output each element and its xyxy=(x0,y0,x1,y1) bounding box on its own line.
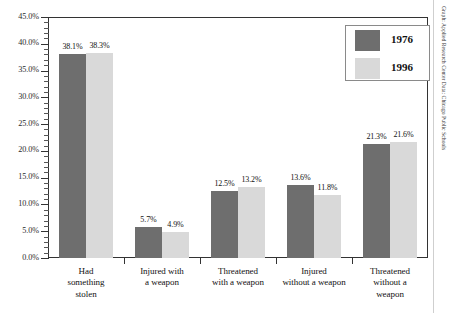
category-label-line: Injured xyxy=(270,266,358,277)
y-tick-minor xyxy=(44,221,49,222)
category-label-0: Hadsomethingstolen xyxy=(42,266,130,300)
y-tick-minor xyxy=(44,38,49,39)
y-tick-major xyxy=(41,151,49,152)
bar-value-label: 4.9% xyxy=(157,221,194,229)
category-label-line: weapon xyxy=(346,289,434,300)
credit-text: Graph: Applied Research Center Data: Chi… xyxy=(441,6,447,150)
category-label-line: without a xyxy=(346,277,434,288)
y-axis-label: 40.0% xyxy=(1,39,39,47)
y-tick-minor xyxy=(44,54,49,55)
y-axis-label: 35.0% xyxy=(1,66,39,74)
category-label-line: a weapon xyxy=(118,277,206,288)
bar-1976-1 xyxy=(135,227,162,258)
x-tick xyxy=(352,258,353,264)
y-tick-major xyxy=(41,231,49,232)
y-tick-major xyxy=(41,71,49,72)
y-axis-label-wrap: 5.0% xyxy=(0,227,39,236)
y-tick-minor xyxy=(44,156,49,157)
bar-1996-2 xyxy=(238,187,265,258)
y-tick-minor xyxy=(44,135,49,136)
y-axis-label-wrap: 15.0% xyxy=(0,173,39,182)
legend-swatch-1976 xyxy=(355,30,380,51)
legend-swatch-1996 xyxy=(355,58,380,79)
y-tick-minor xyxy=(44,188,49,189)
category-label-line: without a weapon xyxy=(270,277,358,288)
y-tick-minor xyxy=(44,183,49,184)
y-tick-major xyxy=(41,97,49,98)
category-label-line: Had xyxy=(42,266,130,277)
y-axis-label-wrap: 30.0% xyxy=(0,93,39,102)
x-tick xyxy=(124,258,125,264)
y-tick-minor xyxy=(44,210,49,211)
bar-value-label: 38.3% xyxy=(81,42,118,50)
bar-chart: 0.0%5.0%10.0%15.0%20.0%25.0%30.0%35.0%40… xyxy=(0,0,457,313)
bar-value-label: 11.8% xyxy=(309,184,346,192)
category-label-line: Threatened xyxy=(346,266,434,277)
legend-item-1996: 1996 xyxy=(346,56,431,80)
bar-1996-4 xyxy=(390,142,417,258)
y-axis-label-wrap: 0.0% xyxy=(0,254,39,263)
y-tick-major xyxy=(41,258,49,259)
y-tick-minor xyxy=(44,146,49,147)
legend-label-1976: 1976 xyxy=(391,33,413,46)
y-axis-label-wrap: 45.0% xyxy=(0,13,39,22)
y-tick-minor xyxy=(44,140,49,141)
bar-1996-0 xyxy=(86,53,113,258)
category-label-line: Injured with xyxy=(118,266,206,277)
credit-block: Graph: Applied Research Center Data: Chi… xyxy=(437,6,449,176)
y-tick-minor xyxy=(44,215,49,216)
y-axis-label-wrap: 35.0% xyxy=(0,66,39,75)
y-tick-minor xyxy=(44,226,49,227)
y-tick-minor xyxy=(44,60,49,61)
bar-value-label: 21.6% xyxy=(385,131,422,139)
legend-label-1996: 1996 xyxy=(391,61,413,74)
y-axis-label-wrap: 40.0% xyxy=(0,39,39,48)
y-tick-minor xyxy=(44,172,49,173)
y-axis-label: 10.0% xyxy=(1,200,39,208)
category-label-1: Injured witha weapon xyxy=(118,266,206,289)
y-tick-minor xyxy=(44,113,49,114)
y-tick-minor xyxy=(44,87,49,88)
y-axis-label: 0.0% xyxy=(1,254,39,262)
y-tick-minor xyxy=(44,194,49,195)
y-tick-minor xyxy=(44,65,49,66)
category-label-4: Threatenedwithout aweapon xyxy=(346,266,434,300)
y-tick-major xyxy=(41,124,49,125)
category-label-3: Injuredwithout a weapon xyxy=(270,266,358,289)
x-tick xyxy=(200,258,201,264)
y-axis-label-wrap: 25.0% xyxy=(0,120,39,129)
y-tick-minor xyxy=(44,103,49,104)
credit-divider xyxy=(433,0,434,313)
y-tick-minor xyxy=(44,199,49,200)
y-axis-label: 15.0% xyxy=(1,173,39,181)
y-tick-major xyxy=(41,44,49,45)
bar-1976-3 xyxy=(287,185,314,258)
y-axis-label: 5.0% xyxy=(1,227,39,235)
bar-1996-1 xyxy=(162,232,189,258)
y-tick-minor xyxy=(44,28,49,29)
legend: 1976 1996 xyxy=(345,25,430,81)
y-tick-minor xyxy=(44,49,49,50)
y-tick-minor xyxy=(44,119,49,120)
category-label-line: Threatened xyxy=(194,266,282,277)
y-tick-minor xyxy=(44,108,49,109)
y-tick-minor xyxy=(44,92,49,93)
y-tick-major xyxy=(41,178,49,179)
x-tick xyxy=(276,258,277,264)
y-tick-minor xyxy=(44,129,49,130)
category-label-line: with a weapon xyxy=(194,277,282,288)
category-label-line: stolen xyxy=(42,289,130,300)
y-tick-minor xyxy=(44,76,49,77)
y-axis-label: 20.0% xyxy=(1,146,39,154)
bar-value-label: 13.6% xyxy=(282,174,319,182)
bar-1976-4 xyxy=(363,144,390,258)
category-label-line: something xyxy=(42,277,130,288)
y-tick-minor xyxy=(44,33,49,34)
y-axis-label: 45.0% xyxy=(1,13,39,21)
bar-1976-2 xyxy=(211,191,238,258)
bar-value-label: 13.2% xyxy=(233,176,270,184)
y-tick-major xyxy=(41,17,49,18)
y-tick-minor xyxy=(44,162,49,163)
y-axis-label-wrap: 20.0% xyxy=(0,146,39,155)
y-tick-minor xyxy=(44,237,49,238)
